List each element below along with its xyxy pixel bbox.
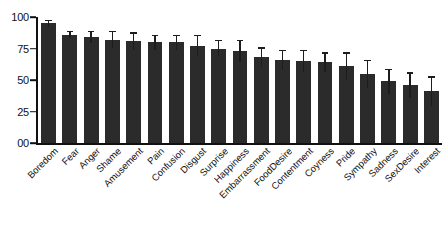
bar-group[interactable] [233, 17, 248, 143]
bar-group[interactable] [190, 17, 205, 143]
bar-group[interactable] [148, 17, 163, 143]
error-bar-cap [109, 31, 116, 33]
bar-group[interactable] [62, 17, 77, 143]
error-bar-cap [45, 20, 52, 22]
bar-group[interactable] [275, 17, 290, 143]
error-bar-cap [428, 76, 435, 78]
error-bar-stem [176, 35, 177, 50]
error-bar-stem [218, 40, 219, 58]
x-axis-line [36, 143, 442, 145]
y-tick-label: 50 [17, 75, 29, 86]
bar[interactable] [84, 37, 99, 143]
error-bar-stem [303, 50, 304, 73]
error-bar-cap [300, 50, 307, 52]
error-bar-cap [67, 31, 74, 33]
bar[interactable] [126, 41, 141, 143]
error-bar-cap [215, 40, 222, 42]
bar-group[interactable] [126, 17, 141, 143]
y-tick-label: 75 [17, 43, 29, 54]
bar-group[interactable] [360, 17, 375, 143]
bar-group[interactable] [296, 17, 311, 143]
y-tick-label: 00 [17, 138, 29, 149]
error-bar-cap [385, 69, 392, 71]
error-bar-stem [324, 52, 325, 72]
error-bar-cap [343, 52, 350, 54]
error-bar-stem [367, 60, 368, 88]
error-bar-stem [239, 40, 240, 63]
error-bar-cap [322, 52, 329, 54]
x-axis-labels: BoredomFearAngerShameAmusementPainConfus… [38, 146, 442, 250]
bar[interactable] [190, 46, 205, 143]
y-tick-label: 100 [11, 12, 29, 23]
error-bar-stem [388, 69, 389, 94]
bar[interactable] [233, 51, 248, 143]
bar[interactable] [211, 49, 226, 144]
error-bar-cap [152, 35, 159, 37]
bar[interactable] [169, 42, 184, 143]
bar-group[interactable] [424, 17, 439, 143]
error-bar-cap [173, 35, 180, 37]
bar[interactable] [296, 61, 311, 143]
bar-group[interactable] [41, 17, 56, 143]
bar-group[interactable] [339, 17, 354, 143]
bar-group[interactable] [211, 17, 226, 143]
bar[interactable] [41, 23, 56, 143]
error-bar-cap [258, 47, 265, 49]
error-bar-cap [237, 40, 244, 42]
error-bar-stem [154, 35, 155, 50]
bar-group[interactable] [318, 17, 333, 143]
error-bar-stem [261, 47, 262, 67]
error-bar-cap [88, 31, 95, 33]
bar-group[interactable] [254, 17, 269, 143]
bar[interactable] [275, 60, 290, 143]
bar-group[interactable] [381, 17, 396, 143]
error-bar-stem [112, 31, 113, 49]
bar-group[interactable] [403, 17, 418, 143]
y-tick-label: 25 [17, 106, 29, 117]
error-bar-stem [282, 50, 283, 70]
error-bar-cap [407, 72, 414, 74]
error-bar-stem [133, 32, 134, 50]
error-bar-stem [197, 35, 198, 58]
bar[interactable] [318, 62, 333, 143]
bar-group[interactable] [105, 17, 120, 143]
error-bar-cap [279, 50, 286, 52]
bar[interactable] [148, 42, 163, 143]
y-axis: 00255075100 [0, 0, 40, 250]
bar[interactable] [105, 40, 120, 143]
error-bar-stem [409, 72, 410, 97]
error-bar-cap [364, 60, 371, 62]
error-bar-stem [90, 31, 91, 44]
plot-area [38, 17, 442, 143]
error-bar-cap [194, 35, 201, 37]
bar[interactable] [62, 35, 77, 143]
bar-group[interactable] [84, 17, 99, 143]
bar[interactable] [254, 57, 269, 143]
error-bar-stem [346, 52, 347, 80]
error-bar-stem [431, 76, 432, 106]
error-bar-cap [130, 32, 137, 34]
bar-group[interactable] [169, 17, 184, 143]
bar-chart: 00255075100 BoredomFearAngerShameAmuseme… [0, 0, 447, 250]
